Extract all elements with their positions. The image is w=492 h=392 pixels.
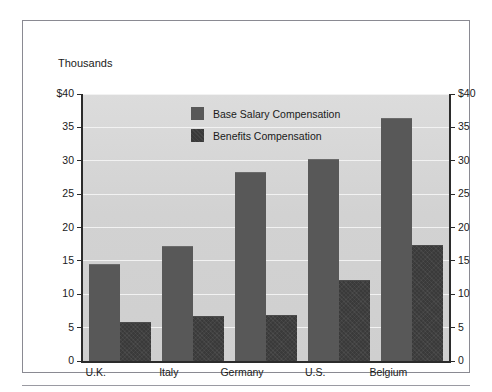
y-axis-label-right: 10 bbox=[458, 288, 470, 299]
bar-benefits-uk bbox=[120, 322, 151, 361]
axis-tick-right bbox=[449, 127, 455, 128]
legend-label-benefits: Benefits Compensation bbox=[213, 130, 322, 142]
legend-item-benefits: Benefits Compensation bbox=[191, 127, 340, 144]
axis-tick-right bbox=[449, 94, 455, 95]
chart-title: Thousands bbox=[58, 57, 112, 69]
bar-base-us bbox=[308, 159, 339, 361]
axis-tick-left bbox=[77, 327, 83, 328]
y-axis-label-left: $40 bbox=[56, 88, 74, 99]
y-axis-label-left: 10 bbox=[62, 288, 74, 299]
bar-base-uk bbox=[89, 264, 120, 361]
y-axis-label-right: 30 bbox=[458, 155, 470, 166]
axis-tick-right bbox=[449, 260, 455, 261]
y-axis-label-left: 30 bbox=[62, 155, 74, 166]
axis-tick-left bbox=[77, 227, 83, 228]
x-axis-label-germany: Germany bbox=[220, 366, 263, 378]
axis-tick-right bbox=[449, 294, 455, 295]
axis-tick-right bbox=[449, 160, 455, 161]
x-axis-label-belgium: Belgium bbox=[369, 366, 407, 378]
footer-rule bbox=[22, 385, 470, 386]
axis-tick-left bbox=[77, 361, 83, 362]
y-axis-label-right: 35 bbox=[458, 121, 470, 132]
axis-tick-left bbox=[77, 194, 83, 195]
y-axis-label-right: 15 bbox=[458, 255, 470, 266]
axis-tick-right bbox=[449, 361, 455, 362]
y-axis-label-right: 0 bbox=[458, 355, 464, 366]
axis-tick-left bbox=[77, 294, 83, 295]
axis-tick-right bbox=[449, 327, 455, 328]
legend-label-base-salary: Base Salary Compensation bbox=[213, 108, 340, 120]
y-axis-label-right: $40 bbox=[458, 88, 476, 99]
y-axis-label-left: 20 bbox=[62, 222, 74, 233]
x-axis-label-us: U.S. bbox=[305, 366, 325, 378]
figure-frame: Thousands 0055101015152020252530303535$4… bbox=[22, 20, 470, 373]
y-axis-label-right: 20 bbox=[458, 222, 470, 233]
legend-swatch-benefits bbox=[191, 129, 204, 142]
chart-legend: Base Salary Compensation Benefits Compen… bbox=[191, 105, 340, 149]
bar-base-germany bbox=[235, 172, 266, 361]
x-axis-label-italy: Italy bbox=[159, 366, 178, 378]
bar-base-italy bbox=[162, 246, 193, 361]
legend-item-base-salary: Base Salary Compensation bbox=[191, 105, 340, 122]
y-axis-label-left: 25 bbox=[62, 188, 74, 199]
axis-tick-left bbox=[77, 260, 83, 261]
x-axis-label-uk: U.K. bbox=[85, 366, 105, 378]
axis-tick-left bbox=[77, 94, 83, 95]
bar-benefits-us bbox=[339, 280, 370, 361]
bar-benefits-belgium bbox=[412, 245, 443, 361]
bar-benefits-germany bbox=[266, 315, 297, 361]
legend-swatch-base-salary bbox=[191, 107, 204, 120]
bar-benefits-italy bbox=[193, 316, 224, 361]
y-axis-label-left: 35 bbox=[62, 121, 74, 132]
axis-tick-left bbox=[77, 160, 83, 161]
bar-base-belgium bbox=[381, 118, 412, 361]
axis-tick-left bbox=[77, 127, 83, 128]
y-axis-label-right: 5 bbox=[458, 322, 464, 333]
axis-tick-right bbox=[449, 194, 455, 195]
y-axis-label-left: 0 bbox=[68, 355, 74, 366]
axis-tick-right bbox=[449, 227, 455, 228]
y-axis-label-left: 15 bbox=[62, 255, 74, 266]
y-axis-label-left: 5 bbox=[68, 322, 74, 333]
y-axis-label-right: 25 bbox=[458, 188, 470, 199]
gridline bbox=[83, 94, 449, 95]
